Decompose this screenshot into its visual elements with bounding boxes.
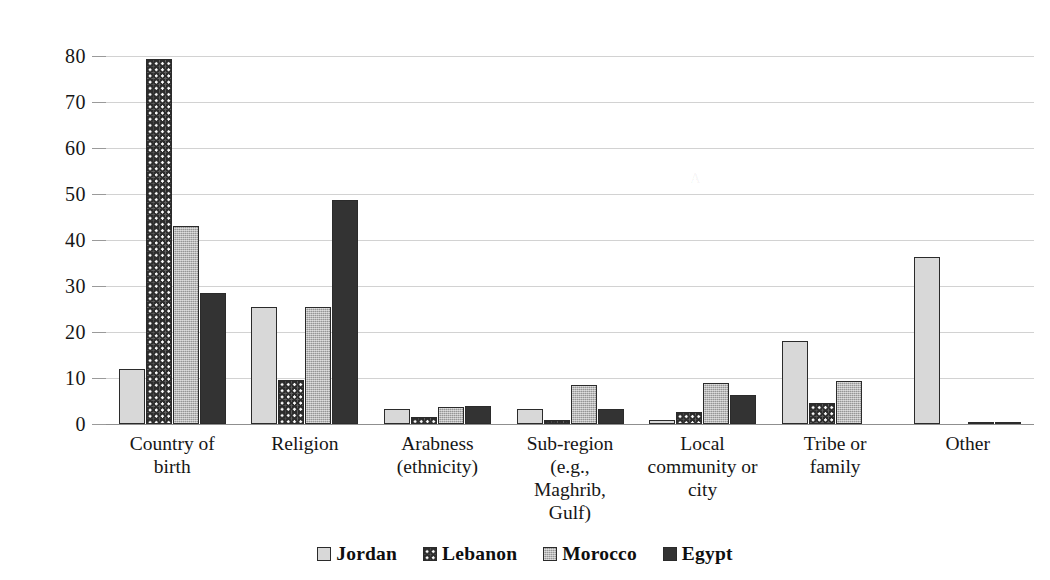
y-axis-tick-labels: 80706050403020100: [40, 0, 86, 440]
bar-group-3: [517, 56, 624, 424]
bar-lebanon-0: [146, 59, 172, 424]
tick-mark-10: [92, 378, 106, 379]
y-axis-tick-50: 50: [40, 184, 86, 204]
bar-groups: [106, 0, 1034, 440]
legend-item-lebanon[interactable]: Lebanon: [423, 543, 517, 565]
legend-swatch-egypt-icon: [663, 547, 677, 561]
x-axis-label-2: Arabness(ethnicity): [371, 432, 504, 478]
legend-label-lebanon: Lebanon: [442, 543, 517, 565]
bar-egypt-0: [200, 293, 226, 424]
bar-jordan-1: [251, 307, 277, 424]
bar-group-4: [649, 56, 756, 424]
tick-mark-0: [92, 424, 106, 425]
bar-group-5: [782, 56, 889, 424]
x-axis-label-line: birth: [106, 455, 239, 478]
x-axis-label-line: Other: [901, 432, 1034, 455]
bar-morocco-5: [836, 381, 862, 424]
tick-mark-70: [92, 102, 106, 103]
tick-mark-80: [92, 56, 106, 57]
x-axis-label-line: Arabness: [371, 432, 504, 455]
x-axis-label-line: Gulf): [504, 501, 637, 524]
bar-lebanon-1: [278, 380, 304, 424]
x-axis-label-5: Tribe orfamily: [769, 432, 902, 478]
bar-jordan-0: [119, 369, 145, 424]
x-axis-label-line: (e.g.,: [504, 455, 637, 478]
legend-label-morocco: Morocco: [562, 543, 637, 565]
bar-egypt-3: [598, 409, 624, 424]
y-axis-tick-70: 70: [40, 92, 86, 112]
bar-egypt-6: [995, 422, 1021, 425]
x-axis-label-0: Country ofbirth: [106, 432, 239, 478]
bar-morocco-6: [968, 422, 994, 425]
legend-swatch-lebanon-icon: [423, 547, 437, 561]
chart-legend: JordanLebanonMoroccoEgypt: [0, 543, 1050, 565]
y-axis-tick-60: 60: [40, 138, 86, 158]
legend-swatch-morocco-icon: [543, 547, 557, 561]
x-axis-label-line: Religion: [239, 432, 372, 455]
legend-swatch-jordan-icon: [317, 547, 331, 561]
legend-item-egypt[interactable]: Egypt: [663, 543, 733, 565]
bar-jordan-2: [384, 409, 410, 424]
bar-chart-figure: 80706050403020100 Country ofbirthReligio…: [0, 0, 1050, 580]
x-axis-label-1: Religion: [239, 432, 372, 455]
bar-egypt-1: [332, 200, 358, 424]
x-axis-label-line: community or: [636, 455, 769, 478]
x-axis-label-line: Maghrib,: [504, 478, 637, 501]
legend-item-jordan[interactable]: Jordan: [317, 543, 397, 565]
x-axis-label-line: city: [636, 478, 769, 501]
y-axis-tick-20: 20: [40, 322, 86, 342]
tick-mark-60: [92, 148, 106, 149]
bar-morocco-1: [305, 307, 331, 424]
x-axis-label-4: Localcommunity orcity: [636, 432, 769, 501]
x-axis-label-6: Other: [901, 432, 1034, 455]
bar-egypt-4: [730, 395, 756, 424]
x-axis-label-line: Tribe or: [769, 432, 902, 455]
x-axis-label-line: Sub-region: [504, 432, 637, 455]
bar-group-6: [914, 56, 1021, 424]
bar-lebanon-3: [544, 420, 570, 424]
bar-group-0: [119, 56, 226, 424]
bar-jordan-4: [649, 420, 675, 424]
y-axis-tick-30: 30: [40, 276, 86, 296]
tick-mark-50: [92, 194, 106, 195]
x-axis-category-labels: Country ofbirthReligionArabness(ethnicit…: [106, 432, 1034, 540]
x-axis-label-line: Local: [636, 432, 769, 455]
bar-lebanon-4: [676, 412, 702, 424]
x-axis-label-3: Sub-region(e.g.,Maghrib,Gulf): [504, 432, 637, 524]
tick-mark-30: [92, 286, 106, 287]
bar-group-2: [384, 56, 491, 424]
legend-label-jordan: Jordan: [336, 543, 397, 565]
bar-lebanon-5: [809, 403, 835, 424]
x-axis-label-line: (ethnicity): [371, 455, 504, 478]
bar-lebanon-2: [411, 417, 437, 424]
plot-area: 80706050403020100: [0, 0, 1050, 440]
bar-jordan-6: [914, 257, 940, 424]
bar-morocco-4: [703, 383, 729, 424]
tick-mark-40: [92, 240, 106, 241]
bar-egypt-2: [465, 406, 491, 424]
bar-group-1: [251, 56, 358, 424]
x-axis-label-line: family: [769, 455, 902, 478]
tick-mark-20: [92, 332, 106, 333]
y-axis-tick-10: 10: [40, 368, 86, 388]
bar-morocco-3: [571, 385, 597, 424]
y-axis-tick-40: 40: [40, 230, 86, 250]
bar-morocco-0: [173, 226, 199, 424]
y-axis-tick-0: 0: [40, 414, 86, 434]
x-axis-label-line: Country of: [106, 432, 239, 455]
bar-jordan-3: [517, 409, 543, 424]
legend-item-morocco[interactable]: Morocco: [543, 543, 637, 565]
legend-label-egypt: Egypt: [682, 543, 733, 565]
bar-jordan-5: [782, 341, 808, 424]
y-axis-tick-80: 80: [40, 46, 86, 66]
bar-morocco-2: [438, 407, 464, 424]
